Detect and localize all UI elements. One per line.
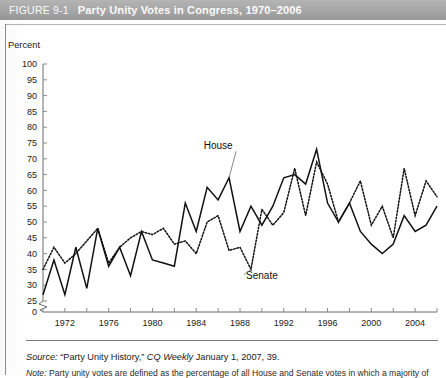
note-label: Note:: [26, 368, 47, 378]
x-tick-label: 1988: [230, 318, 250, 328]
y-tick-label: 60: [27, 186, 37, 196]
x-axis: 197219761980198419881992199620002004: [43, 308, 437, 328]
source-label: Source:: [26, 352, 58, 362]
source-publication: CQ Weekly: [147, 352, 193, 362]
y-axis: 0253035404550556065707580859095100: [22, 59, 47, 317]
chart-annotations: HouseSenate: [204, 140, 279, 281]
source-note: Source: “Party Unity History,” CQ Weekly…: [26, 352, 442, 362]
source-divider: [26, 340, 438, 341]
figure-title: Party Unity Votes in Congress, 1970–2006: [78, 4, 302, 16]
y-tick-label: 40: [27, 249, 37, 259]
y-tick-label: 100: [22, 59, 37, 69]
y-tick-label: 75: [27, 138, 37, 148]
y-tick-label: 90: [27, 91, 37, 101]
x-tick-label: 1992: [274, 318, 294, 328]
y-tick-label: 95: [27, 75, 37, 85]
x-tick-label: 1980: [142, 318, 162, 328]
figure-number: FIGURE 9-1: [9, 4, 69, 16]
figure-note: Note: Party unity votes are defined as t…: [26, 368, 446, 378]
x-tick-label: 2000: [361, 318, 381, 328]
chart-container: 0253035404550556065707580859095100 19721…: [0, 24, 446, 332]
y-tick-label: 0: [32, 307, 37, 317]
y-tick-label: 35: [27, 265, 37, 275]
y-tick-label: 65: [27, 170, 37, 180]
y-tick-label: 80: [27, 122, 37, 132]
source-rest: January 1, 2007, 39.: [196, 352, 280, 362]
y-tick-label: 30: [27, 280, 37, 290]
x-tick-label: 1996: [318, 318, 338, 328]
party-unity-line-chart: 0253035404550556065707580859095100 19721…: [0, 24, 446, 332]
figure-header-bar: FIGURE 9-1 Party Unity Votes in Congress…: [0, 0, 446, 20]
y-tick-label: 85: [27, 107, 37, 117]
series-label-house: House: [204, 140, 233, 151]
series-label-senate: Senate: [246, 270, 278, 281]
x-tick-label: 1976: [99, 318, 119, 328]
y-tick-label: 25: [27, 296, 37, 306]
y-axis-title: Percent: [8, 40, 40, 50]
series-line-senate: [43, 162, 437, 269]
x-tick-label: 1984: [186, 318, 206, 328]
leader-line-house: [229, 151, 236, 177]
y-tick-label: 50: [27, 217, 37, 227]
y-tick-label: 70: [27, 154, 37, 164]
chart-series-group: [43, 149, 437, 294]
y-tick-label: 55: [27, 201, 37, 211]
series-line-house: [43, 149, 437, 294]
x-tick-label: 2004: [405, 318, 425, 328]
source-quoted-title: “Party Unity History,”: [60, 352, 144, 362]
x-tick-label: 1972: [55, 318, 75, 328]
y-tick-label: 45: [27, 233, 37, 243]
note-text: Party unity votes are defined as the per…: [49, 368, 429, 378]
